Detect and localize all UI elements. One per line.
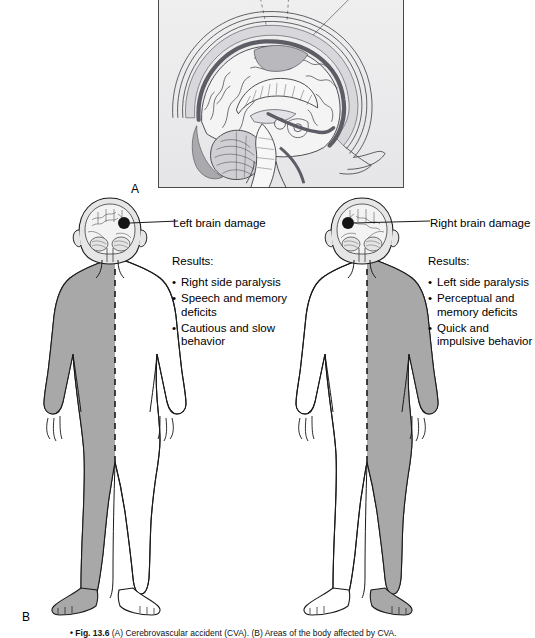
result-item: Right side paralysis — [172, 276, 322, 290]
caption-text: (A) Cerebrovascular accident (CVA). (B) … — [112, 628, 397, 638]
panel-a-label: A — [131, 182, 139, 196]
sagittal-brain-svg — [159, 0, 403, 187]
lesion-marker — [342, 217, 354, 229]
callout-right-brain-damage: Right brain damage — [430, 218, 530, 230]
result-item: Speech and memory deficits — [172, 292, 322, 319]
callout-left-label: Left brain damage — [173, 218, 266, 230]
figure-canvas: A — [0, 0, 535, 638]
results-heading-right: Results: — [428, 255, 535, 267]
panel-b-body-diagram: Left brain damage Right brain damage Res… — [0, 196, 535, 638]
affected-side-shading — [10, 216, 115, 616]
caption-bullet-glyph: • — [70, 628, 73, 638]
lesion-marker — [118, 217, 130, 229]
callout-left-brain-damage: Left brain damage — [173, 218, 266, 230]
result-item: Quick and impulsive behavior — [428, 322, 535, 349]
results-heading-left: Results: — [172, 255, 322, 267]
results-list-right: Left side paralysis Perceptual and memor… — [428, 276, 535, 349]
result-item: Perceptual and memory deficits — [428, 292, 535, 319]
results-list-left: Right side paralysis Speech and memory d… — [172, 276, 322, 349]
callout-right-label: Right brain damage — [430, 218, 530, 230]
result-item: Cautious and slow behavior — [172, 322, 322, 349]
panel-b-label: B — [22, 610, 30, 624]
figure-caption: • Fig. 13.6 (A) Cerebrovascular accident… — [70, 629, 530, 638]
result-item: Left side paralysis — [428, 276, 535, 290]
panel-a-brain-illustration — [158, 0, 404, 188]
results-right-panel: Results: Left side paralysis Perceptual … — [428, 255, 535, 351]
results-left-panel: Results: Right side paralysis Speech and… — [172, 255, 322, 351]
figure-number: Fig. 13.6 — [75, 628, 109, 638]
